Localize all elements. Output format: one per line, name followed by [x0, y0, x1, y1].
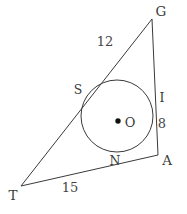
vertex-label-g: G [156, 5, 167, 19]
tangent-point-label-n: N [110, 155, 121, 168]
geometry-drawing [0, 0, 187, 214]
triangle-outline [21, 19, 158, 186]
triangle-side-ga [152, 19, 158, 155]
circle-center-label-o: O [125, 116, 136, 129]
tangent-point-label-i: I [160, 92, 165, 105]
geometry-figure: G A T S I N O 12 8 15 [0, 0, 187, 214]
circle-center-dot [115, 118, 120, 123]
inscribed-circle [81, 80, 153, 152]
vertex-label-a: A [162, 154, 172, 168]
measurement-label-8: 8 [158, 117, 166, 130]
tangent-point-label-s: S [74, 84, 83, 97]
measurement-label-12: 12 [97, 35, 114, 48]
vertex-label-t: T [8, 189, 17, 203]
measurement-label-15: 15 [62, 181, 79, 194]
